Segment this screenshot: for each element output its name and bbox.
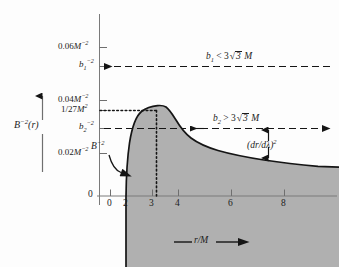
y-tick-label-zero: 0 (88, 190, 93, 200)
y-tick-label-0.02: 0.02M−2 (58, 148, 88, 157)
y-tick-label-b1-inverse-squared: b1−2 (79, 60, 94, 69)
curve-label-b-inverse-squared: B−2 (91, 142, 104, 152)
y-tick-label-peak-one-over-27: 1/27M2 (61, 105, 88, 114)
x-axis-title: r/M (194, 236, 208, 246)
b1-condition-annotation: b1 < 3√3 M (206, 51, 252, 62)
x-tick-label-4: 4 (175, 199, 180, 209)
x-tick-label-6: 6 (228, 199, 233, 209)
shaded-region-under-curve (126, 105, 339, 267)
y-tick-label-b2-inverse-squared: b2−2 (79, 122, 94, 131)
y-axis-title: B−2(r) (14, 120, 39, 130)
curve-label-pointer-arrow (109, 155, 121, 173)
radial-velocity-squared-label: (dr/dλ)2 (247, 141, 277, 151)
y-tick-label-0.06: 0.06M−2 (58, 42, 88, 51)
x-tick-label-2: 2 (123, 199, 128, 209)
y-axis-ticks (100, 48, 108, 154)
figure-container: 0.06M−2 b1−2 0.04M−2 1/27M2 b2−2 0.02M−2… (0, 0, 339, 267)
x-tick-label-3: 3 (149, 199, 154, 209)
b2-condition-annotation: b2 > 3√3 M (213, 113, 259, 124)
effective-potential-plot (0, 0, 339, 267)
x-tick-label-8: 8 (281, 199, 286, 209)
x-tick-label-0: 0 (107, 199, 112, 209)
